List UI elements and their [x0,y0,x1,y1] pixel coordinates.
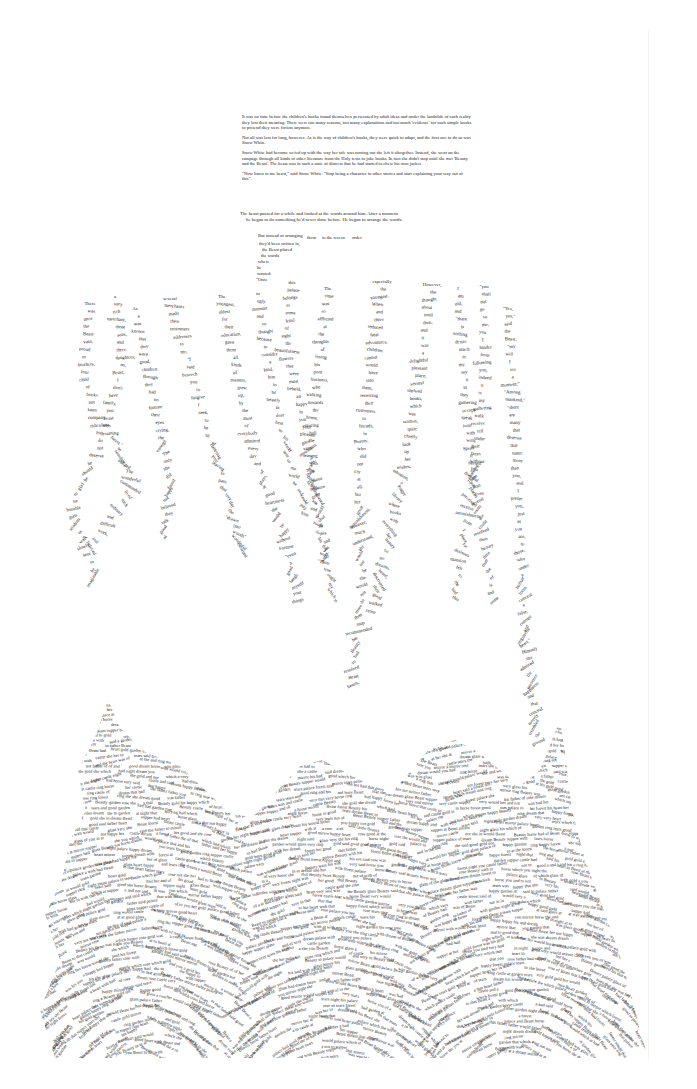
svg-text:forest palace you the Beast: forest palace you the Beast [612,847,659,869]
column-word: from [462,518,473,527]
column-word: When [372,301,384,307]
column-word: should [81,465,95,477]
column-word: I [517,488,520,493]
svg-text:night of his had palace: night of his had palace [294,727,334,733]
svg-text:a a: a a [258,784,264,790]
svg-text:and was not: and was not [191,710,213,718]
svg-text:his forest: his forest [34,923,52,934]
column-word: only [163,457,173,464]
column-word: losing [315,354,328,360]
column-word: but [355,492,362,498]
column-word: known [131,328,145,334]
column-word: There [84,301,95,306]
column-word: ground [531,737,546,747]
svg-text:had father she dream: had father she dream [322,703,360,714]
svg-text:in had to to Beast: in had to to Beast [335,722,367,727]
column-word: you [190,380,198,385]
column-word: walk [474,413,484,419]
column-word: had [149,390,157,395]
column-word: the [485,566,493,574]
column-word: not [97,445,104,450]
svg-text:night rose: night rose [164,748,182,754]
column-word: a [114,294,117,299]
svg-text:mirror very father night his: mirror very father night his [229,751,277,763]
column-word: "drawn [225,514,240,523]
svg-text:forest his and and: forest his and and [493,747,525,754]
svg-text:dream garden: dream garden [647,692,672,704]
column-word: to [362,416,367,421]
svg-text:said night: said night [34,742,53,750]
svg-text:to which night: to which night [140,741,167,750]
column-word: pass [218,478,227,485]
svg-text:in at: in at [519,706,528,712]
column-word: be [271,390,276,395]
svg-text:to her to: to her to [463,736,479,744]
svg-text:very mirror to palace garden: very mirror to palace garden [604,865,654,884]
column-word: would [355,581,368,589]
column-word: her [404,457,411,462]
column-word: home, [306,415,318,422]
svg-text:not she in would Beast: not she in would Beast [465,831,506,836]
svg-text:dream a: dream a [283,743,297,748]
column-word: who [516,556,526,562]
column-word: same [303,445,313,451]
column-word: "my [507,344,516,350]
column-word: is [489,582,493,588]
column-word: was [134,321,142,327]
column-word: deserve [507,434,522,440]
svg-text:which would Beauty: which would Beauty [649,1025,672,1060]
column-word: forgive [191,394,205,400]
svg-text:night of ring tears: night of ring tears [497,709,529,718]
svg-text:horse very: horse very [73,727,92,733]
svg-text:garden a forest: garden a forest [388,732,415,737]
column-word: be [83,476,90,483]
column-word: The [218,294,225,299]
column-word: because [256,336,272,342]
column-word: indeed [479,375,493,381]
svg-text:her Beauty with: her Beauty with [35,822,64,836]
svg-text:Beast the and in: Beast the and in [637,931,663,953]
column-word: and [526,693,535,700]
column-word: cannot [364,354,378,360]
column-word: shall [481,291,491,297]
svg-text:with dream happy you supper: with dream happy you supper [35,710,87,731]
svg-text:was at you: was at you [206,751,226,759]
column-word: consider [261,351,278,357]
column-word: nothing [453,331,469,337]
svg-text:with Beauty: with Beauty [137,716,159,722]
svg-text:the tears glass to: the tears glass to [453,716,483,724]
svg-text:in happy: in happy [59,803,76,813]
column-word: beast [104,415,115,421]
svg-text:that heart: that heart [637,885,655,895]
column-word: you [106,408,114,413]
svg-text:horse night: horse night [369,836,389,841]
svg-text:forest of: forest of [216,701,231,706]
svg-text:mirror good: mirror good [34,947,56,961]
column-word: time [325,293,334,299]
svg-text:with tears her palace the: with tears her palace the [569,754,612,767]
svg-text:gold would: gold would [629,792,650,803]
column-word: that [139,336,147,341]
column-word: him [268,375,276,380]
svg-text:dream Beauty garden: dream Beauty garden [597,732,635,748]
column-word: books [86,392,98,398]
column-word: under [518,563,530,572]
column-word: so [483,314,488,319]
column-word: books, [410,396,423,402]
column-word: to [457,573,464,580]
column-word: it [421,335,425,340]
column-word: to [273,382,278,387]
svg-text:palace supper rose of happy: palace supper rose of happy [659,978,696,1018]
svg-text:not would: not would [208,726,227,733]
column-word: everybody [237,430,258,436]
svg-text:was of would her that: was of would her that [371,763,410,769]
column-word: this [289,280,296,285]
column-word: beseech [182,371,198,377]
column-word: work, [97,528,110,538]
svg-text:with night rose heart: with night rose heart [235,733,272,748]
column-word: have [369,370,378,376]
svg-text:had glass: had glass [592,772,609,781]
column-word: receive [471,420,485,426]
svg-text:castle was her father Beauty: castle was her father Beauty [646,937,692,966]
svg-text:that good: that good [518,779,536,785]
